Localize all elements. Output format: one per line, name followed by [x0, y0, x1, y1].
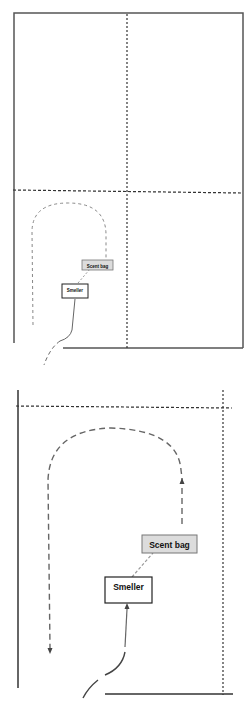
- smeller-label: Smeller: [113, 582, 144, 592]
- horizontal-divider: [16, 406, 232, 408]
- scent-bag-label: Scent bag: [87, 264, 109, 269]
- approach-path-dashed-tail: [83, 680, 98, 698]
- approach-path: [60, 299, 75, 341]
- arrow-down-icon: [48, 648, 53, 654]
- diagram-canvas: Scent bag Smeller Scent bag Smeller: [0, 0, 251, 712]
- arrow-up-icon: [125, 603, 130, 609]
- arrow-up-icon: [180, 478, 185, 484]
- approach-path-dashed: [105, 652, 125, 675]
- overview-panel: Scent bag Smeller: [13, 13, 243, 365]
- detail-panel: Scent bag Smeller: [16, 390, 233, 698]
- scent-connector: [78, 269, 90, 283]
- scent-bag-label: Scent bag: [149, 540, 190, 550]
- field-boundary: [14, 13, 243, 348]
- approach-path-dashed: [44, 341, 60, 365]
- approach-path: [125, 609, 127, 647]
- scent-connector: [132, 553, 153, 577]
- smeller-label: Smeller: [67, 288, 84, 293]
